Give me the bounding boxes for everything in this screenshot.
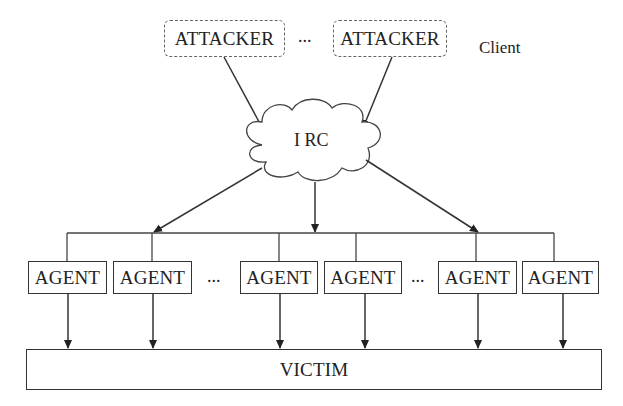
agent-node-4: AGENT [324, 261, 402, 294]
agent-node-1: AGENT [28, 261, 107, 294]
agent-label: AGENT [120, 267, 185, 289]
attacker-node-1: ATTACKER [164, 20, 285, 57]
agent-label: AGENT [35, 267, 100, 289]
agent-label: AGENT [246, 267, 311, 289]
connector-lines [0, 0, 623, 406]
client-label: Client [479, 38, 521, 58]
attacker-ellipsis: ... [298, 26, 312, 47]
agent-node-3: AGENT [240, 261, 318, 294]
attacker-node-2: ATTACKER [333, 20, 447, 57]
attacker-label: ATTACKER [340, 28, 439, 50]
agent-ellipsis-2: ... [411, 266, 425, 287]
victim-node: VICTIM [26, 349, 602, 390]
agent-label: AGENT [330, 267, 395, 289]
agent-label: AGENT [528, 267, 593, 289]
victim-label: VICTIM [280, 359, 349, 381]
agent-node-5: AGENT [438, 261, 517, 294]
agent-node-6: AGENT [522, 261, 599, 294]
irc-label: I RC [294, 130, 329, 151]
agent-ellipsis-1: ... [207, 266, 221, 287]
attacker-label: ATTACKER [175, 28, 274, 50]
agent-label: AGENT [445, 267, 510, 289]
agent-node-2: AGENT [113, 261, 192, 294]
